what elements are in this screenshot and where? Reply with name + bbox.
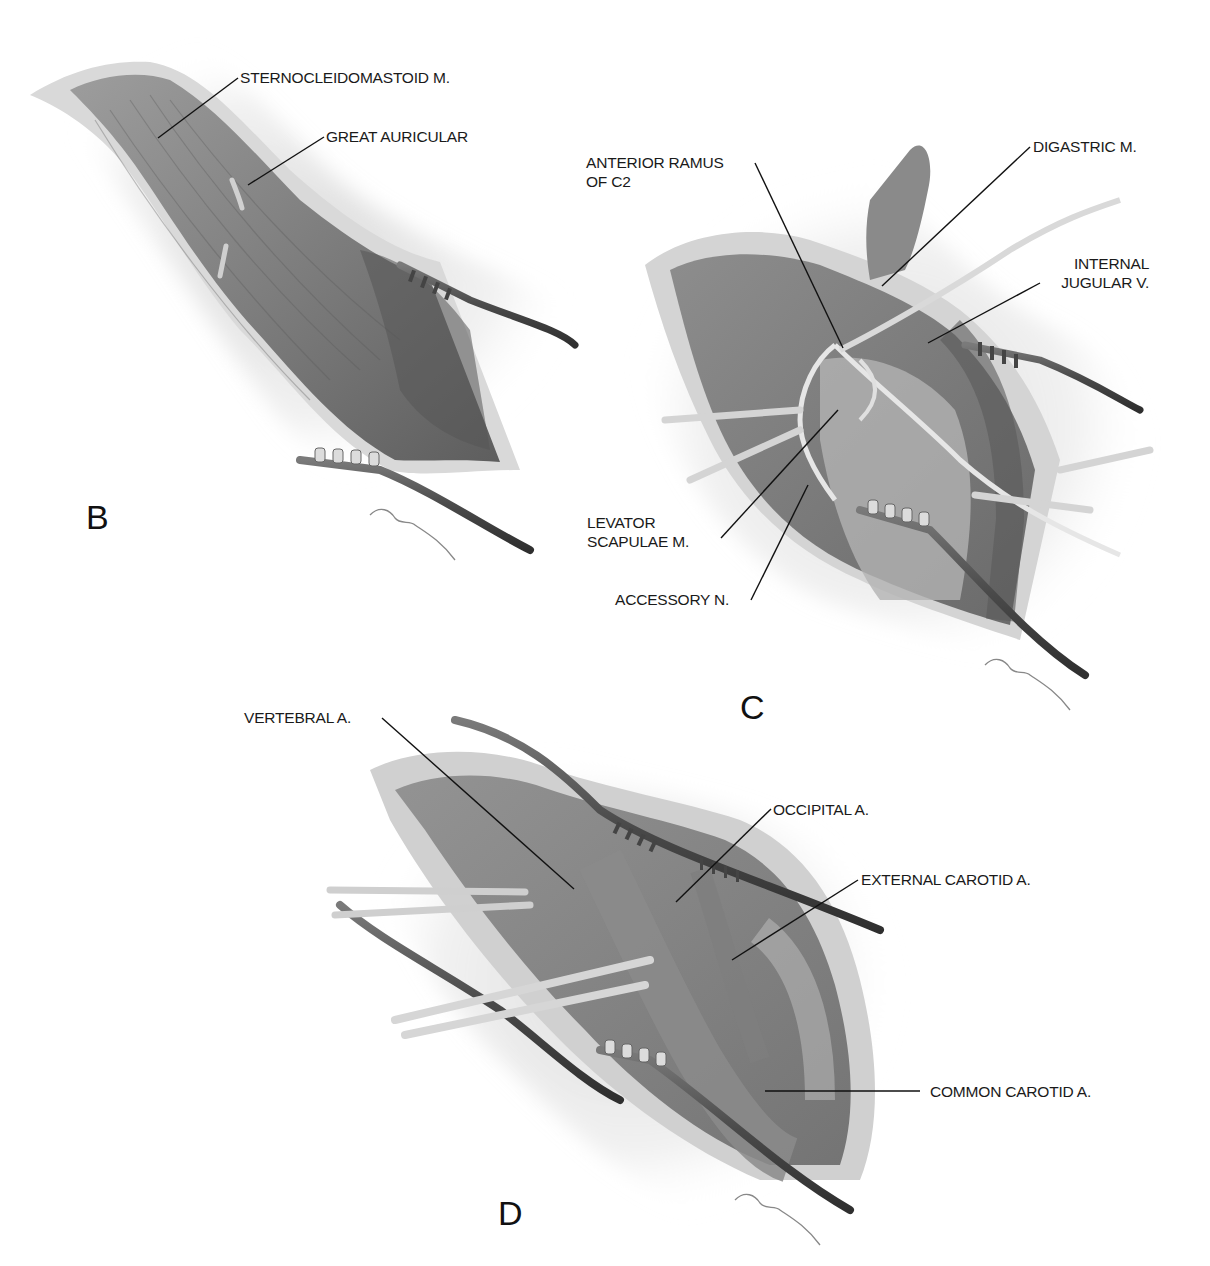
label-levator-scapulae: LEVATOR SCAPULAE M. [587,513,689,551]
label-anterior-ramus-line1: ANTERIOR RAMUS [586,153,724,172]
label-internal-jugular: INTERNAL JUGULAR V. [1046,254,1149,292]
label-accessory-nerve: ACCESSORY N. [615,590,729,609]
label-common-carotid: COMMON CAROTID A. [930,1082,1091,1101]
label-internal-jugular-line1: INTERNAL [1046,254,1149,273]
label-anterior-ramus-line2: OF C2 [586,172,724,191]
label-levator-line2: SCAPULAE M. [587,532,689,551]
label-great-auricular: GREAT AURICULAR [326,127,468,146]
panel-b-artwork [20,32,580,560]
panel-letter-d: D [498,1196,523,1230]
label-occipital-artery: OCCIPITAL A. [773,800,869,819]
label-vertebral-artery: VERTEBRAL A. [244,708,351,727]
panel-d-artwork [330,720,900,1245]
label-anterior-ramus-c2: ANTERIOR RAMUS OF C2 [586,153,724,191]
label-external-carotid: EXTERNAL CAROTID A. [861,870,1031,889]
panel-letter-b: B [86,500,109,534]
panel-c-artwork [626,146,1150,710]
panel-letter-c: C [740,690,765,724]
label-sternocleidomastoid: STERNOCLEIDOMASTOID M. [240,68,450,87]
label-internal-jugular-line2: JUGULAR V. [1046,273,1149,292]
label-levator-line1: LEVATOR [587,513,689,532]
label-digastric: DIGASTRIC M. [1033,137,1137,156]
